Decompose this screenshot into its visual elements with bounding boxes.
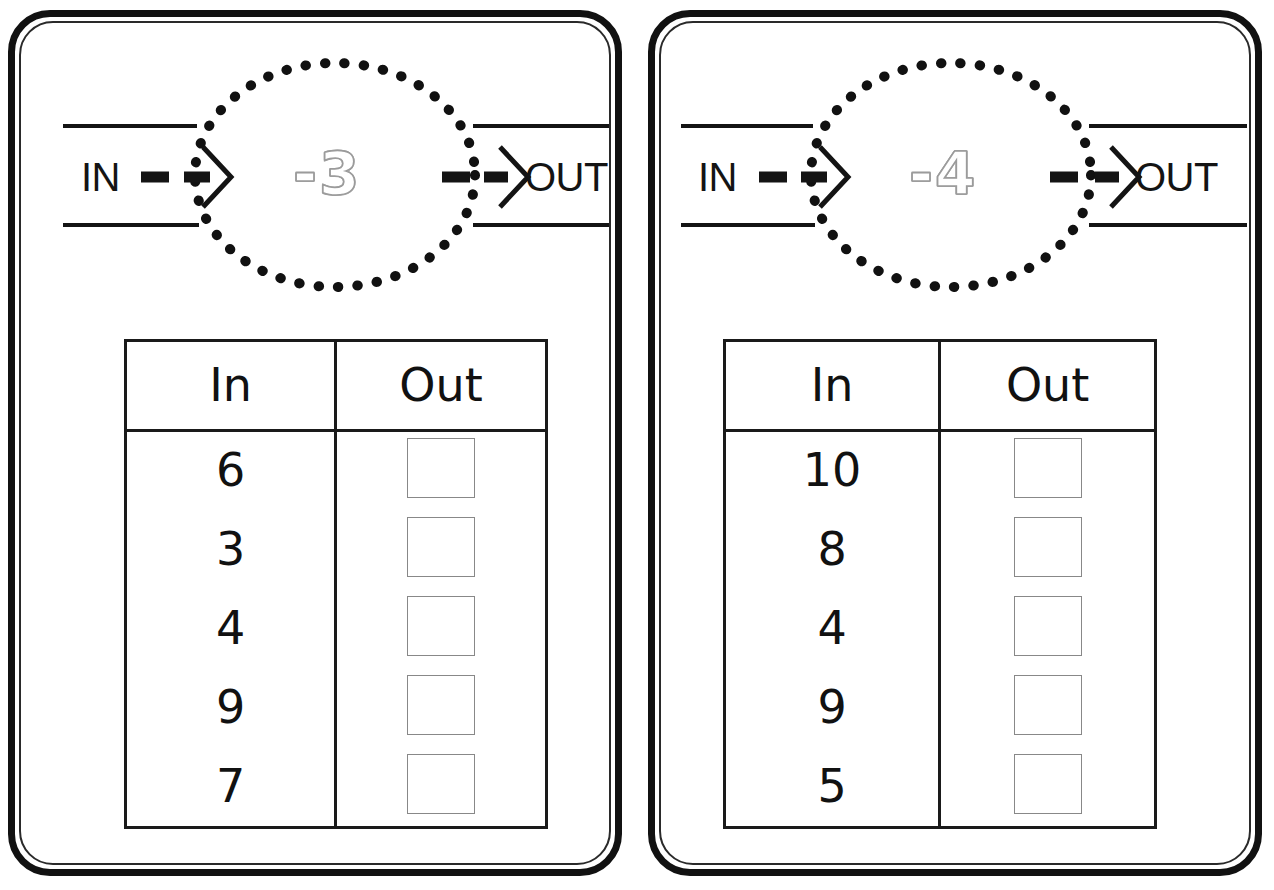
in-cell-2-4: 9	[726, 668, 940, 747]
in-value: 4	[216, 601, 245, 655]
in-label-1: IN	[81, 157, 120, 197]
answer-box[interactable]	[407, 675, 475, 735]
answer-box[interactable]	[1014, 517, 1082, 577]
table-row: 7	[127, 747, 545, 826]
out-cell-2-4[interactable]	[940, 668, 1154, 747]
answer-box[interactable]	[1014, 438, 1082, 498]
table-row: 4	[127, 588, 545, 667]
out-arrow-1	[442, 147, 528, 207]
table-row: 9	[726, 668, 1154, 747]
table-header-row-2: In Out	[726, 342, 1154, 430]
in-cell-2-5: 5	[726, 747, 940, 826]
out-cell-2-1[interactable]	[940, 430, 1154, 509]
in-cell-2-2: 8	[726, 509, 940, 588]
out-cell-1-5[interactable]	[336, 747, 545, 826]
out-cell-1-4[interactable]	[336, 668, 545, 747]
out-cell-2-5[interactable]	[940, 747, 1154, 826]
answer-box[interactable]	[407, 754, 475, 814]
out-label-2: OUT	[1135, 157, 1218, 197]
in-value: 6	[216, 443, 245, 497]
in-arrow-2	[759, 147, 848, 207]
in-out-table-2: In Out 10	[723, 339, 1157, 829]
column-header-in-2: In	[726, 342, 940, 430]
in-cell-2-3: 4	[726, 588, 940, 667]
out-label-1: OUT	[525, 157, 608, 197]
in-label-2: IN	[698, 157, 737, 197]
in-value: 10	[803, 443, 862, 497]
in-cell-1-5: 7	[127, 747, 336, 826]
in-arrow-1	[141, 147, 231, 207]
table-row: 4	[726, 588, 1154, 667]
function-machine-diagram-1: IN -3 OUT	[21, 29, 609, 315]
out-cell-2-2[interactable]	[940, 509, 1154, 588]
function-machine-card-1: IN -3 OUT In Out 6	[8, 10, 622, 876]
in-cell-1-4: 9	[127, 668, 336, 747]
in-cell-1-1: 6	[127, 430, 336, 509]
function-machine-card-2: IN -4 OUT In Out 10	[648, 10, 1262, 876]
in-out-table-1: In Out 6	[124, 339, 548, 829]
in-cell-2-1: 10	[726, 430, 940, 509]
answer-box[interactable]	[407, 438, 475, 498]
worksheet-page: IN -3 OUT In Out 6	[0, 0, 1274, 890]
table-row: 9	[127, 668, 545, 747]
card-inner-border-1: IN -3 OUT In Out 6	[19, 21, 611, 865]
in-value: 9	[216, 680, 245, 734]
machine-rule-2: -4	[909, 145, 977, 203]
table-row: 3	[127, 509, 545, 588]
in-value: 3	[216, 522, 245, 576]
answer-box[interactable]	[407, 596, 475, 656]
in-value: 7	[216, 759, 245, 813]
out-cell-1-2[interactable]	[336, 509, 545, 588]
column-header-in-1: In	[127, 342, 336, 430]
in-value: 4	[817, 601, 846, 655]
table-row: 10	[726, 430, 1154, 509]
table-row: 5	[726, 747, 1154, 826]
answer-box[interactable]	[1014, 754, 1082, 814]
in-cell-1-2: 3	[127, 509, 336, 588]
out-cell-1-3[interactable]	[336, 588, 545, 667]
out-cell-2-3[interactable]	[940, 588, 1154, 667]
card-inner-border-2: IN -4 OUT In Out 10	[659, 21, 1251, 865]
in-value: 8	[817, 522, 846, 576]
column-header-out-1: Out	[336, 342, 545, 430]
in-value: 5	[817, 759, 846, 813]
out-cell-1-1[interactable]	[336, 430, 545, 509]
machine-rule-1: -3	[293, 145, 361, 203]
function-machine-diagram-2: IN -4 OUT	[661, 29, 1249, 315]
answer-box[interactable]	[407, 517, 475, 577]
answer-box[interactable]	[1014, 596, 1082, 656]
table-header-row-1: In Out	[127, 342, 545, 430]
answer-box[interactable]	[1014, 675, 1082, 735]
column-header-out-2: Out	[940, 342, 1154, 430]
in-value: 9	[817, 680, 846, 734]
table-row: 6	[127, 430, 545, 509]
in-cell-1-3: 4	[127, 588, 336, 667]
table-row: 8	[726, 509, 1154, 588]
